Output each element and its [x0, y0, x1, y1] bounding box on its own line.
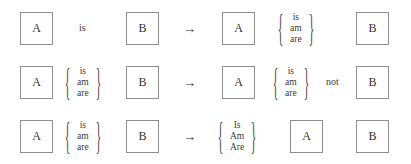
- verb-item: Am: [230, 131, 244, 142]
- letter-box: B: [356, 66, 389, 99]
- brace-group: { is am are }: [272, 62, 310, 102]
- letter-box: B: [126, 66, 159, 99]
- letter-box: B: [126, 12, 159, 45]
- letter-box: B: [356, 120, 389, 153]
- letter-box: A: [222, 66, 255, 99]
- brace-group: { Is Am Are }: [217, 116, 257, 156]
- right-arrow-icon: →: [183, 76, 196, 89]
- verb-item: is: [80, 66, 86, 77]
- left-brace-icon: {: [64, 117, 71, 155]
- verb-item: is: [80, 120, 86, 131]
- verb-item: are: [290, 34, 302, 45]
- left-brace-icon: {: [272, 63, 279, 101]
- verb-item: am: [290, 23, 302, 34]
- letter-box: A: [222, 12, 255, 45]
- rule-arrow: →: [183, 76, 196, 89]
- right-brace-icon: }: [302, 63, 309, 101]
- box-a-right: A: [222, 12, 255, 45]
- box-b-left: B: [126, 12, 159, 45]
- connector-word-not: not: [326, 77, 339, 87]
- transformation-rules-diagram: A is B → A { is am are } B: [0, 0, 411, 164]
- left-brace-icon: {: [64, 63, 71, 101]
- letter-box: A: [290, 120, 323, 153]
- letter-box: A: [20, 66, 53, 99]
- verb-item: are: [285, 88, 297, 99]
- rule-arrow: →: [183, 130, 196, 143]
- box-a-left: A: [20, 120, 53, 153]
- letter-box: B: [356, 12, 389, 45]
- verb-item: are: [77, 88, 89, 99]
- letter-box: A: [20, 12, 53, 45]
- brace-group: { is am are }: [277, 8, 315, 48]
- box-a-right: A: [290, 120, 323, 153]
- verb-item: are: [77, 142, 89, 153]
- connector-word-is: is: [79, 23, 86, 33]
- verb-item: is: [293, 12, 299, 23]
- brace-group: { is am are }: [64, 62, 102, 102]
- box-a-right: A: [222, 66, 255, 99]
- brace-group: { is am are }: [64, 116, 102, 156]
- left-brace-icon: {: [217, 117, 224, 155]
- rule-arrow: →: [183, 22, 196, 35]
- verb-item: am: [77, 131, 89, 142]
- box-a-left: A: [20, 66, 53, 99]
- word-label: is: [79, 23, 86, 33]
- verb-list: Is Am Are: [224, 120, 250, 153]
- letter-box: B: [126, 120, 159, 153]
- box-b-left: B: [126, 66, 159, 99]
- verb-item: am: [77, 77, 89, 88]
- box-a-left: A: [20, 12, 53, 45]
- verb-list: is am are: [284, 12, 308, 45]
- box-b-right: B: [356, 120, 389, 153]
- verb-list: is am are: [71, 120, 95, 153]
- right-arrow-icon: →: [183, 22, 196, 35]
- verb-set-left: { is am are }: [64, 116, 102, 156]
- verb-list: is am are: [279, 66, 303, 99]
- verb-set-left: { is am are }: [64, 62, 102, 102]
- letter-box: A: [20, 120, 53, 153]
- verb-item: Are: [230, 142, 244, 153]
- box-b-right: B: [356, 12, 389, 45]
- word-label: not: [326, 77, 339, 87]
- verb-item: is: [288, 66, 294, 77]
- right-brace-icon: }: [307, 9, 314, 47]
- right-brace-icon: }: [94, 117, 101, 155]
- box-b-right: B: [356, 66, 389, 99]
- verb-item: am: [285, 77, 297, 88]
- box-b-left: B: [126, 120, 159, 153]
- verb-item: Is: [234, 120, 241, 131]
- verb-set-right: { is am are }: [277, 8, 315, 48]
- verb-list: is am are: [71, 66, 95, 99]
- right-arrow-icon: →: [183, 130, 196, 143]
- rule-row-3: A { is am are } B → { Is: [0, 110, 411, 162]
- right-brace-icon: }: [250, 117, 257, 155]
- right-brace-icon: }: [94, 63, 101, 101]
- left-brace-icon: {: [277, 9, 284, 47]
- rule-row-1: A is B → A { is am are } B: [0, 2, 411, 54]
- verb-set-right: { Is Am Are }: [217, 116, 257, 156]
- rule-row-2: A { is am are } B → A {: [0, 56, 411, 108]
- verb-set-right: { is am are }: [272, 62, 310, 102]
